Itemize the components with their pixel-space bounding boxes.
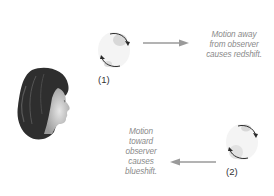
arrow-left-icon [170, 157, 216, 167]
caption-line: Motion [116, 127, 166, 137]
caption-line: from observer [196, 40, 272, 50]
arrow-toward [170, 153, 216, 163]
arrow-away [143, 34, 189, 44]
object-2-label: (2) [226, 166, 238, 177]
observer-face-icon [14, 66, 78, 146]
caption-line: blueshift. [116, 167, 166, 177]
caption-line: causes [116, 157, 166, 167]
caption-redshift: Motion away from observer causes redshif… [196, 30, 272, 60]
object-1-label: (1) [98, 74, 110, 85]
observer-face [14, 66, 78, 146]
caption-line: toward [116, 137, 166, 147]
rotation-arrows-icon [222, 120, 262, 164]
caption-blueshift: Motion toward observer causes blueshift. [116, 127, 166, 177]
rotating-object-1 [94, 28, 134, 72]
caption-line: Motion away [196, 30, 272, 40]
arrow-right-icon [143, 38, 189, 48]
rotation-arrows-icon [94, 28, 134, 72]
rotating-object-2 [222, 120, 262, 164]
caption-line: observer [116, 147, 166, 157]
caption-line: causes redshift. [196, 50, 272, 60]
